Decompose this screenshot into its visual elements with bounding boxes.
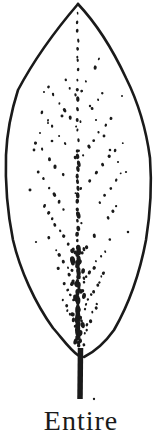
figure-caption: Entire bbox=[0, 406, 162, 434]
leaf-petiole bbox=[80, 348, 81, 399]
leaf-outline-left bbox=[6, 4, 79, 356]
